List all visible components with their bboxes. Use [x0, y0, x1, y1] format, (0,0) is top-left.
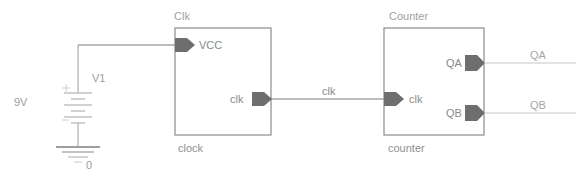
schematic-canvas: 9V V1 0 Clk VCC clk clock clk Counter cl…: [0, 0, 576, 179]
power-wire[interactable]: [78, 45, 175, 93]
clock-block-instance-name: clock: [178, 142, 203, 154]
counter-qb-pin-label: QB: [446, 107, 462, 119]
qa-net-label: QA: [530, 49, 546, 61]
clock-block-title: Clk: [174, 10, 190, 22]
counter-qa-pin-label: QA: [446, 57, 462, 69]
clock-vcc-pin-label: VCC: [199, 39, 222, 51]
qb-net-label: QB: [530, 99, 546, 111]
counter-clk-in-pin-label: clk: [409, 93, 422, 105]
clock-clk-out-pin-label: clk: [230, 93, 243, 105]
battery-symbol[interactable]: [62, 84, 92, 146]
schematic-drawing: [0, 0, 576, 179]
counter-block-title: Counter: [389, 10, 428, 22]
ground-label: 0: [86, 159, 92, 171]
source-voltage-label: 9V: [14, 96, 27, 108]
source-ref-designator-label: V1: [92, 72, 105, 84]
counter-block-instance-name: counter: [388, 142, 425, 154]
ground-symbol[interactable]: [56, 147, 100, 162]
clk-wire-label: clk: [322, 85, 335, 97]
